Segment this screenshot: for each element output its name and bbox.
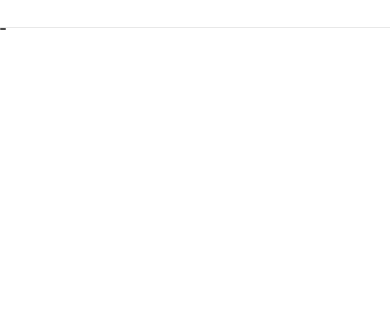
gold-price-chart <box>0 28 390 180</box>
current-price-badge <box>0 28 6 30</box>
interest-rate-plot <box>14 184 352 296</box>
interest-rate-svg <box>14 184 352 296</box>
gold-price-svg <box>14 28 352 168</box>
gold-price-plot <box>14 28 352 168</box>
interest-rate-chart <box>0 184 390 309</box>
chart-header <box>0 0 390 27</box>
chart-screenshot <box>0 0 390 333</box>
